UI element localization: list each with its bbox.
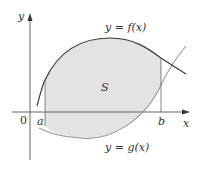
region-s-label: S: [101, 81, 109, 94]
origin-label: 0: [20, 114, 27, 127]
y-axis-label: y: [17, 10, 25, 23]
x-axis-arrow-icon: [182, 110, 190, 115]
area-between-curves-diagram: y x 0 a b S y = f(x) y = g(x): [0, 0, 201, 170]
x-axis-label: x: [183, 117, 190, 130]
y-axis-arrow-icon: [28, 13, 33, 21]
bound-a-label: a: [37, 115, 44, 128]
upper-curve-label: y = f(x): [104, 21, 146, 34]
bound-b-label: b: [158, 115, 165, 128]
lower-curve-label: y = g(x): [104, 141, 149, 154]
